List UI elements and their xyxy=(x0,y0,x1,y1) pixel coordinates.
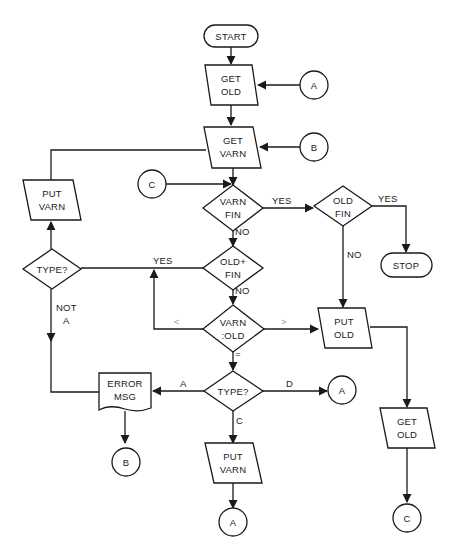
old-plus-fin-decision: OLD+ FIN xyxy=(203,246,263,290)
label-varn-fin-no: NO xyxy=(235,226,250,237)
svg-text:C: C xyxy=(403,513,410,524)
svg-text:FIN: FIN xyxy=(335,208,351,219)
label-old-plus-fin-yes: YES xyxy=(153,255,173,266)
label-not-a-line2: A xyxy=(63,315,70,326)
svg-text:A: A xyxy=(230,517,237,528)
connector-b-bottom: B xyxy=(112,448,140,476)
svg-text:OLD: OLD xyxy=(221,86,241,97)
edge-not-a-to-error-msg xyxy=(51,338,99,392)
svg-text:C: C xyxy=(148,179,155,190)
svg-text:OLD: OLD xyxy=(334,329,354,340)
label-old-fin-yes: YES xyxy=(378,193,398,204)
type-decision-center: TYPE? xyxy=(204,371,263,411)
svg-text:GET: GET xyxy=(221,73,241,84)
varn-fin-decision: VARN FIN xyxy=(203,185,263,231)
svg-text:OLD+: OLD+ xyxy=(220,256,246,267)
label-not-a-line1: NOT xyxy=(56,302,77,313)
svg-text:VARN: VARN xyxy=(220,317,247,328)
svg-text:PUT: PUT xyxy=(223,451,243,462)
edge-put-varn-left-to-get-varn xyxy=(51,150,206,180)
label-type-c: C xyxy=(236,415,243,426)
type-decision-left: TYPE? xyxy=(23,249,81,289)
stop-terminal: STOP xyxy=(381,253,432,277)
svg-text:START: START xyxy=(215,31,246,42)
put-old-io: PUT OLD xyxy=(318,308,372,348)
label-varn-fin-yes: YES xyxy=(272,195,292,206)
svg-text:TYPE?: TYPE? xyxy=(36,264,67,275)
connector-b-top: B xyxy=(300,133,328,161)
start-terminal: START xyxy=(204,25,258,47)
svg-text:TYPE?: TYPE? xyxy=(217,386,248,397)
label-cmp-less: < xyxy=(174,316,180,327)
svg-text:STOP: STOP xyxy=(393,260,420,271)
error-msg-document: ERROR MSG xyxy=(99,373,151,411)
varn-compare-old-decision: VARN :OLD xyxy=(203,305,264,352)
get-old-io-top: GET OLD xyxy=(205,65,258,105)
svg-text:VARN: VARN xyxy=(39,201,66,212)
svg-text:PUT: PUT xyxy=(42,188,62,199)
svg-text:FIN: FIN xyxy=(225,209,241,220)
svg-text:GET: GET xyxy=(397,416,417,427)
svg-text:ERROR: ERROR xyxy=(107,378,142,389)
label-old-fin-no: NO xyxy=(347,249,362,260)
connector-c-bottom: C xyxy=(393,504,421,532)
svg-text:OLD: OLD xyxy=(397,429,417,440)
connector-c-left: C xyxy=(138,170,166,198)
svg-text:A: A xyxy=(339,385,346,396)
svg-text:VARN: VARN xyxy=(220,196,247,207)
svg-text:A: A xyxy=(311,80,318,91)
connector-a-right: A xyxy=(328,376,356,404)
label-cmp-equal: = xyxy=(235,348,241,359)
connector-a-bottom: A xyxy=(219,508,247,536)
label-old-plus-fin-no: NO xyxy=(235,285,250,296)
label-type-a: A xyxy=(180,378,187,389)
label-cmp-greater: > xyxy=(281,316,287,327)
svg-text:B: B xyxy=(123,457,130,468)
svg-text::OLD: :OLD xyxy=(222,330,245,341)
svg-text:GET: GET xyxy=(223,135,243,146)
svg-text:MSG: MSG xyxy=(114,391,136,402)
connector-a-top: A xyxy=(300,71,328,99)
put-varn-io-left: PUT VARN xyxy=(23,180,81,220)
edge-put-old-to-get-old xyxy=(370,327,407,407)
svg-text:PUT: PUT xyxy=(334,316,354,327)
svg-text:VARN: VARN xyxy=(220,464,247,475)
get-varn-io: GET VARN xyxy=(204,127,261,168)
svg-text:FIN: FIN xyxy=(225,269,241,280)
label-type-d: D xyxy=(286,378,293,389)
svg-text:VARN: VARN xyxy=(220,148,247,159)
edge-old-fin-yes xyxy=(372,206,406,252)
put-varn-io-center: PUT VARN xyxy=(205,443,262,483)
svg-text:OLD: OLD xyxy=(333,195,353,206)
get-old-io-bottom: GET OLD xyxy=(380,408,435,448)
svg-text:B: B xyxy=(311,142,318,153)
flowchart-canvas: START GET OLD A GET VARN B C PUT VARN VA… xyxy=(0,0,457,556)
old-fin-decision: OLD FIN xyxy=(314,186,372,226)
